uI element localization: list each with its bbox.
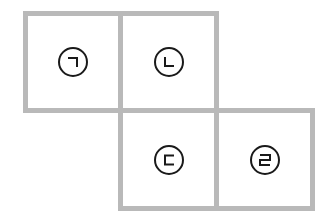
circled-digeut-icon (154, 145, 184, 175)
circled-nieun-icon (154, 47, 184, 77)
cell-giyeok: ㉠ (23, 11, 123, 113)
cell-nieun: ㉡ (118, 11, 219, 113)
cell-rieul: ㉣ (214, 108, 315, 211)
circled-giyeok-icon (58, 47, 88, 77)
cell-digeut: ㉢ (118, 108, 219, 211)
circled-rieul-icon (250, 145, 280, 175)
